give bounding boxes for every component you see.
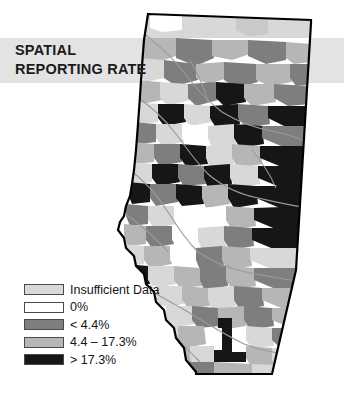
legend-label: < 4.4%: [70, 318, 109, 332]
legend-label: 0%: [70, 300, 88, 314]
legend-row: 4.4 – 17.3%: [24, 334, 159, 352]
legend-label: > 17.3%: [70, 353, 116, 367]
legend-swatch-insufficient-data: [24, 284, 64, 295]
legend-swatch-zero-percent: [24, 302, 64, 313]
title-line-2: REPORTING RATE: [15, 60, 146, 79]
title-line-1: SPATIAL: [15, 41, 146, 60]
legend-row: > 17.3%: [24, 351, 159, 369]
page-title: SPATIAL REPORTING RATE: [15, 41, 146, 79]
figure-spatial-reporting-rate: SPATIAL REPORTING RATE: [0, 0, 344, 395]
legend-row: 0%: [24, 299, 159, 317]
legend-label: 4.4 – 17.3%: [70, 335, 137, 349]
legend-row: < 4.4%: [24, 316, 159, 334]
map-legend: Insufficient Data 0% < 4.4% 4.4 – 17.3% …: [24, 281, 159, 369]
legend-swatch-under-4-4: [24, 319, 64, 330]
legend-swatch-over-17-3: [24, 354, 64, 365]
legend-swatch-4-4-to-17-3: [24, 337, 64, 348]
legend-row: Insufficient Data: [24, 281, 159, 299]
legend-label: Insufficient Data: [70, 283, 159, 297]
